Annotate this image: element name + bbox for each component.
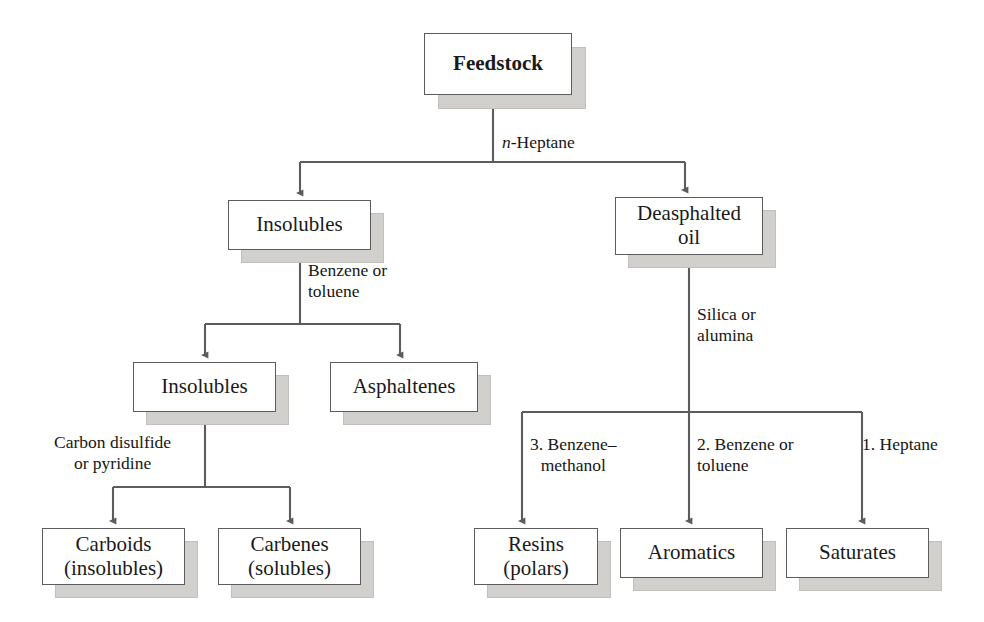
caption-n-heptane-italic: n	[502, 132, 511, 152]
node-saturates[interactable]: Saturates	[786, 528, 929, 578]
node-aromatics-label: Aromatics	[642, 541, 741, 565]
node-insolubles-2-label: Insolubles	[155, 375, 253, 399]
caption-silica-or-alumina: Silica or alumina	[697, 304, 756, 345]
node-carbenes[interactable]: Carbenes (solubles)	[218, 528, 361, 585]
node-carbenes-label: Carbenes (solubles)	[242, 533, 337, 580]
node-carboids-label: Carboids (insolubles)	[58, 533, 169, 580]
caption-benzene-or-toluene-1: Benzene or toluene	[308, 260, 387, 301]
node-feedstock-label: Feedstock	[447, 52, 549, 76]
node-resins[interactable]: Resins (polars)	[474, 528, 598, 585]
caption-n-heptane: n-Heptane	[502, 111, 575, 152]
flowchart-canvas: Feedstock Insolubles Deasphalted oil Ins…	[0, 0, 984, 622]
caption-benzene-or-toluene-2: 2. Benzene or toluene	[697, 434, 794, 475]
node-insolubles-2[interactable]: Insolubles	[133, 362, 276, 412]
caption-benzene-methanol: 3. Benzene– methanol	[530, 434, 617, 475]
node-insolubles-1-label: Insolubles	[250, 213, 348, 237]
node-asphaltenes[interactable]: Asphaltenes	[330, 362, 478, 412]
node-asphaltenes-label: Asphaltenes	[347, 375, 462, 399]
node-carboids[interactable]: Carboids (insolubles)	[42, 528, 185, 585]
node-aromatics[interactable]: Aromatics	[620, 528, 763, 578]
caption-heptane: 1. Heptane	[862, 434, 938, 455]
node-insolubles-1[interactable]: Insolubles	[228, 200, 371, 250]
caption-carbon-disulfide-or-pyridine: Carbon disulfide or pyridine	[54, 432, 171, 473]
node-deasphalted-oil[interactable]: Deasphalted oil	[615, 197, 763, 255]
node-saturates-label: Saturates	[813, 541, 902, 565]
node-feedstock[interactable]: Feedstock	[424, 33, 572, 95]
node-deasphalted-oil-label: Deasphalted oil	[631, 202, 747, 249]
caption-n-heptane-rest: -Heptane	[511, 132, 575, 152]
node-resins-label: Resins (polars)	[497, 533, 574, 580]
